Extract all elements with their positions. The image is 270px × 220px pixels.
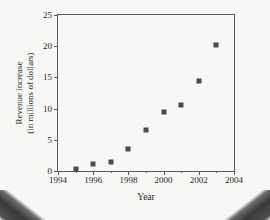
data-point	[161, 109, 166, 114]
x-minor-tick-mark	[146, 171, 147, 173]
y-tick-label: 5	[48, 135, 53, 145]
data-point	[196, 79, 201, 84]
y-tick-mark	[54, 46, 58, 47]
y-tick-mark	[54, 15, 58, 16]
x-tick-label: 1994	[49, 175, 67, 185]
y-tick-label: 15	[43, 72, 52, 82]
data-point	[126, 146, 131, 151]
data-point	[73, 166, 78, 171]
y-tick-mark	[54, 109, 58, 110]
y-axis-title: Revenue increase (in millions of dollars…	[12, 14, 38, 172]
y-tick-label: 25	[43, 10, 52, 20]
y-axis-title-line2: (in millions of dollars)	[25, 52, 36, 133]
x-tick-label: 1996	[84, 175, 102, 185]
x-axis-title: Year	[57, 192, 235, 202]
x-tick-label: 1998	[119, 175, 137, 185]
y-tick-label: 20	[43, 41, 52, 51]
data-point	[144, 128, 149, 133]
y-tick-mark	[54, 140, 58, 141]
plot-area: 0510152025 199419961998200020022004	[57, 14, 235, 172]
data-point	[214, 42, 219, 47]
x-tick-label: 2002	[190, 175, 208, 185]
scatter-chart-figure: Revenue increase (in millions of dollars…	[0, 0, 270, 220]
y-tick-label: 10	[43, 104, 52, 114]
y-axis-title-line1: Revenue increase	[14, 52, 25, 133]
x-minor-tick-mark	[181, 171, 182, 173]
data-point	[108, 159, 113, 164]
x-tick-label: 2000	[155, 175, 173, 185]
data-point	[91, 162, 96, 167]
x-minor-tick-mark	[216, 171, 217, 173]
y-tick-mark	[54, 77, 58, 78]
x-tick-label: 2004	[225, 175, 243, 185]
x-minor-tick-mark	[111, 171, 112, 173]
x-minor-tick-mark	[76, 171, 77, 173]
data-point	[179, 103, 184, 108]
